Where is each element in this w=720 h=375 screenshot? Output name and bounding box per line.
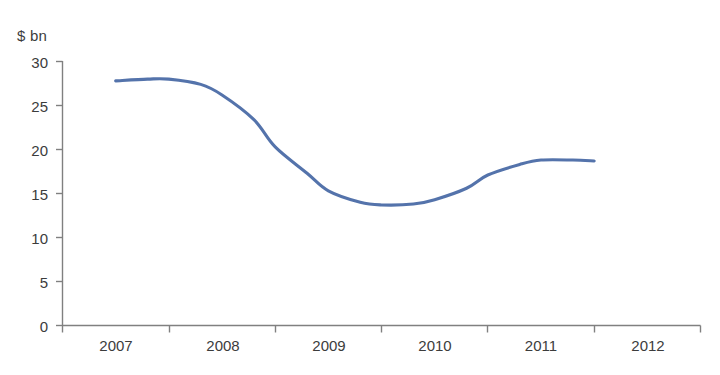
x-tick-label-2012: 2012 bbox=[631, 337, 664, 354]
y-tick-label-5: 5 bbox=[14, 274, 48, 291]
y-tick-label-25: 25 bbox=[14, 98, 48, 115]
y-axis-ticks bbox=[56, 62, 63, 326]
x-tick-label-2011: 2011 bbox=[525, 337, 557, 354]
y-tick-label-0: 0 bbox=[14, 318, 48, 335]
y-tick-label-30: 30 bbox=[14, 54, 48, 71]
x-tick-label-2010: 2010 bbox=[418, 337, 451, 354]
y-tick-label-15: 15 bbox=[14, 186, 48, 203]
plot-area bbox=[0, 0, 720, 375]
y-tick-label-10: 10 bbox=[14, 230, 48, 247]
x-tick-label-2008: 2008 bbox=[206, 337, 239, 354]
line-chart: $ bn 30 25 20 15 1 bbox=[0, 0, 720, 375]
x-tick-label-2009: 2009 bbox=[312, 337, 345, 354]
x-tick-label-2007: 2007 bbox=[99, 337, 132, 354]
y-tick-label-20: 20 bbox=[14, 142, 48, 159]
data-line-series-1 bbox=[116, 79, 595, 205]
x-axis-ticks bbox=[63, 326, 701, 333]
